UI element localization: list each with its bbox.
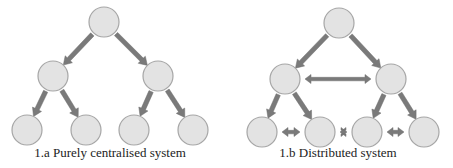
- arrow-centralised-mid-right-leaf-3: [139, 91, 153, 117]
- arrow-distributed-mid-right-leaf-3: [372, 94, 386, 119]
- caption-distributed: 1.b Distributed system: [279, 145, 396, 161]
- arrow-distributed-root-mid-left: [295, 34, 328, 68]
- node-distributed-leaf-2: [305, 117, 335, 147]
- node-distributed-mid-right: [376, 64, 406, 94]
- arrow-distributed-mid-left-leaf-2: [293, 92, 312, 120]
- node-centralised-mid-right: [143, 61, 173, 91]
- node-centralised-leaf-4: [178, 115, 208, 145]
- node-distributed-mid-left: [270, 64, 300, 94]
- arrow-centralised-root-mid-left: [63, 33, 94, 65]
- arrow-centralised-mid-right-leaf-4: [165, 89, 184, 117]
- arrow-distributed-root-mid-right: [349, 34, 381, 68]
- node-centralised-root: [89, 7, 119, 37]
- arrow-centralised-root-mid-right: [114, 32, 147, 65]
- node-distributed-root: [324, 8, 354, 38]
- node-centralised-leaf-1: [12, 115, 42, 145]
- bidirectional-arrow-distributed-leaf-1-leaf-2: [282, 128, 300, 137]
- caption-centralised: 1.a Purely centralised system: [34, 145, 186, 161]
- node-centralised-mid-left: [38, 61, 68, 91]
- arrow-distributed-mid-right-leaf-4: [398, 92, 416, 119]
- node-distributed-leaf-1: [247, 117, 277, 147]
- nodes-layer: [12, 7, 439, 147]
- node-distributed-leaf-4: [409, 117, 439, 147]
- bidirectional-arrow-distributed-leaf-2-leaf-3: [340, 128, 347, 137]
- bidirectional-arrow-distributed-mid-left-mid-right: [305, 75, 371, 84]
- node-centralised-leaf-2: [71, 115, 101, 145]
- node-distributed-leaf-3: [352, 117, 382, 147]
- node-centralised-leaf-3: [119, 115, 149, 145]
- arrow-centralised-mid-left-leaf-1: [33, 90, 48, 116]
- bidirectional-arrow-distributed-leaf-3-leaf-4: [387, 128, 404, 137]
- diagram-canvas: [0, 0, 453, 168]
- arrow-centralised-mid-left-leaf-2: [60, 89, 78, 117]
- arrow-distributed-mid-left-leaf-1: [267, 94, 281, 119]
